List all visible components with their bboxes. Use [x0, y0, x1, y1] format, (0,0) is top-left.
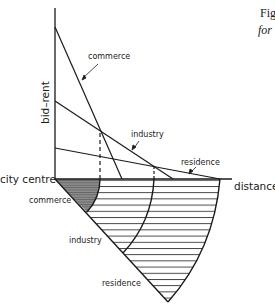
- residence-curve-label: residence: [181, 159, 220, 167]
- figure-caption-line2: for: [258, 24, 272, 36]
- origin-label: city centre: [0, 174, 56, 185]
- residence-zone-label: residence: [102, 280, 141, 288]
- x-axis-label: distance: [234, 181, 275, 192]
- y-axis-label: bid–rent: [40, 81, 51, 124]
- commerce-zone-label: commerce: [29, 197, 71, 205]
- commerce-label-leader: [83, 64, 98, 78]
- industry-zone-label: industry: [69, 237, 102, 245]
- figure-caption-line1: Fig: [260, 7, 275, 19]
- bid-rent-diagram: [0, 0, 275, 308]
- commerce-bid-rent-line: [55, 27, 122, 179]
- commerce-curve-label: commerce: [88, 53, 130, 61]
- industry-curve-label: industry: [131, 131, 164, 139]
